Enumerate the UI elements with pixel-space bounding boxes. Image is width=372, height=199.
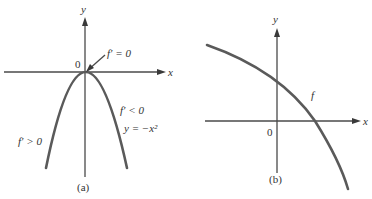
x-axis-label-a: x: [167, 66, 173, 78]
annotation-f-prime-negative: f′ < 0: [120, 104, 144, 116]
y-axis-arrow-icon: [82, 17, 88, 26]
y-axis-label-b: y: [272, 13, 278, 25]
annotation-f-prime-positive: f′ > 0: [18, 135, 42, 147]
caption-a: (a): [77, 181, 90, 194]
x-axis-label-b: x: [362, 115, 368, 127]
x-axis-arrow-icon: [157, 69, 166, 75]
parabola-curve: [46, 72, 127, 168]
caption-b: (b): [269, 173, 282, 186]
panel-a: [4, 17, 166, 177]
y-axis-arrow-icon: [274, 28, 280, 37]
curve-label-f: f: [311, 89, 316, 101]
origin-label-b: 0: [267, 126, 273, 138]
panel-b: [205, 28, 361, 189]
origin-label-a: 0: [75, 58, 81, 70]
annotation-equation: y = −x²: [123, 122, 158, 134]
annotation-f-prime-zero: f′ = 0: [107, 47, 131, 59]
diagram-canvas: y x 0 f′ = 0 f′ < 0 y = −x² f′ > 0 (a) y…: [0, 0, 372, 199]
x-axis-arrow-icon: [352, 118, 361, 124]
y-axis-label-a: y: [80, 3, 86, 15]
